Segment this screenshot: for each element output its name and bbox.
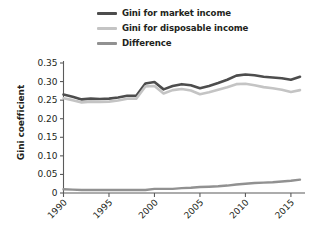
x-tick-label: 2010 — [228, 197, 251, 220]
data-series-group — [64, 75, 301, 191]
x-tick-label: 2000 — [137, 197, 160, 220]
y-tick-label: 0.25 — [37, 95, 57, 105]
y-tick-label: 0.10 — [37, 151, 57, 161]
plot-area: 00.050.100.150.200.250.300.35 1990199520… — [0, 0, 311, 237]
y-tick-label: 0.35 — [37, 58, 57, 68]
x-tick-label: 1995 — [91, 197, 114, 220]
x-axis-ticks: 199019952000200520102015 — [46, 193, 297, 221]
y-tick-label: 0.30 — [37, 77, 57, 87]
y-tick-label: 0.05 — [37, 169, 57, 179]
x-tick-label: 2005 — [182, 197, 205, 220]
y-tick-label: 0 — [52, 188, 58, 198]
series-line-difference — [64, 180, 301, 190]
y-tick-label: 0.15 — [37, 132, 57, 142]
y-tick-label: 0.20 — [37, 114, 57, 124]
x-tick-label: 1990 — [46, 197, 69, 220]
chart-figure: Gini for market income Gini for disposab… — [0, 0, 311, 237]
y-axis-ticks: 00.050.100.150.200.250.300.35 — [37, 58, 63, 198]
x-tick-label: 2015 — [273, 197, 296, 220]
